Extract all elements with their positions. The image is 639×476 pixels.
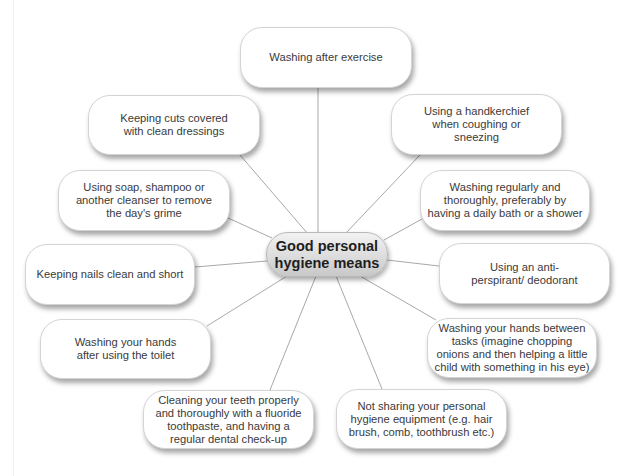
node-not-sharing-equipment: Not sharing your personal hygiene equipm… — [336, 389, 507, 449]
node-text: Cleaning your teeth properly and thoroug… — [150, 394, 307, 446]
node-cleaning-teeth: Cleaning your teeth properly and thoroug… — [143, 390, 314, 449]
node-hands-after-toilet: Washing your hands after using the toile… — [40, 319, 211, 379]
central-topic: Good personal hygiene means — [266, 232, 388, 277]
link-cuts — [240, 155, 308, 234]
node-text: Washing regularly and thoroughly, prefer… — [427, 181, 583, 220]
node-text: Keeping nails clean and short — [37, 268, 184, 281]
link-teeth — [270, 276, 316, 390]
node-keeping-nails-clean: Keeping nails clean and short — [25, 244, 195, 305]
node-text: Using an anti-perspirant/ deodorant — [470, 261, 579, 287]
node-text: Washing after exercise — [269, 51, 382, 64]
node-text: Using soap, shampoo or another cleanser … — [69, 181, 219, 220]
node-anti-perspirant: Using an anti-perspirant/ deodorant — [439, 243, 610, 304]
link-toilet — [207, 276, 287, 326]
node-text: Washing your hands between tasks (imagin… — [434, 322, 590, 374]
node-keeping-cuts-covered: Keeping cuts covered with clean dressing… — [88, 95, 260, 155]
node-washing-regularly: Washing regularly and thoroughly, prefer… — [420, 170, 590, 231]
link-nails — [195, 261, 267, 267]
link-deodorant — [387, 260, 439, 266]
central-topic-line1: Good personal — [275, 238, 380, 255]
node-text: Keeping cuts covered with clean dressing… — [109, 112, 239, 138]
link-soap — [228, 218, 272, 238]
link-washing — [384, 219, 422, 240]
link-tasks — [360, 276, 436, 320]
node-text: Not sharing your personal hygiene equipm… — [343, 400, 500, 439]
central-topic-line2: hygiene means — [275, 255, 380, 272]
node-text: Using a handkerchief when coughing or sn… — [412, 105, 541, 144]
link-handkerchief — [345, 155, 420, 234]
node-hands-between-tasks: Washing your hands between tasks (imagin… — [427, 318, 597, 378]
node-washing-after-exercise: Washing after exercise — [240, 27, 412, 88]
node-using-handkerchief: Using a handkerchief when coughing or sn… — [391, 94, 562, 155]
node-text: Washing your hands after using the toile… — [65, 336, 186, 362]
link-sharing — [336, 276, 382, 389]
node-using-soap: Using soap, shampoo or another cleanser … — [58, 170, 230, 231]
